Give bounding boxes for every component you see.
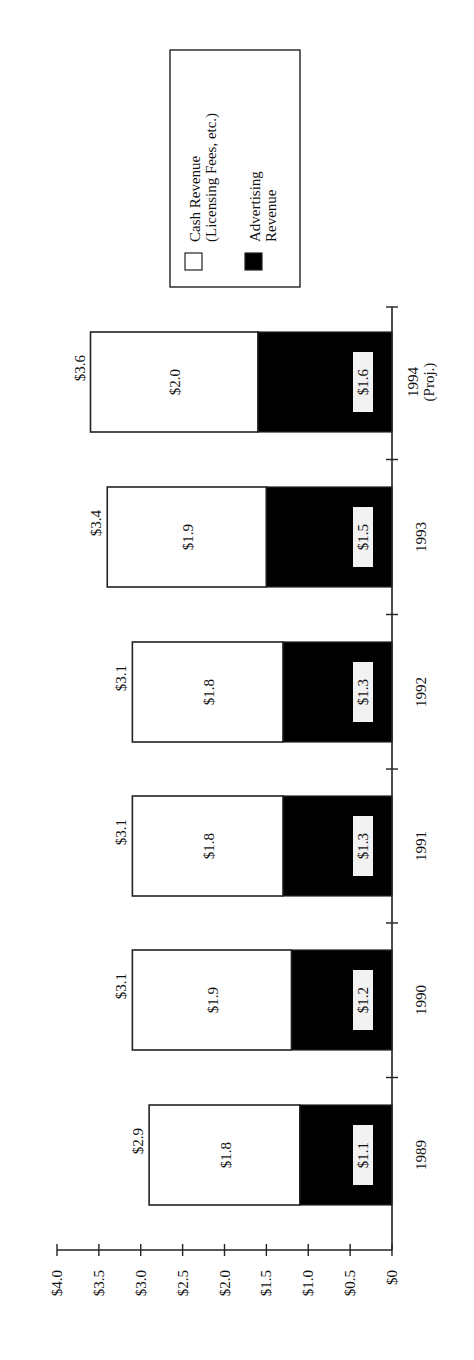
category-label: 1992 (413, 677, 429, 707)
advertising-value-label: $1.2 (355, 987, 371, 1013)
bar-group: $1.6$2.0$3.6 (72, 332, 393, 432)
advertising-value-label: $1.5 (355, 524, 371, 550)
advertising-value-label: $1.6 (355, 368, 371, 395)
total-value-label: $2.9 (130, 1128, 146, 1154)
total-value-label: $3.6 (72, 354, 88, 381)
bar-group: $1.2$1.9$3.1 (113, 950, 392, 1050)
value-tick-label: $2.0 (217, 1270, 233, 1296)
advertising-revenue-segment (266, 487, 392, 587)
total-value-label: $3.1 (113, 973, 129, 999)
cash-value-label: $2.0 (167, 369, 183, 395)
value-tick-label: $1.5 (258, 1270, 274, 1296)
legend-label-sub: (Licensing Fees, etc.) (203, 113, 220, 242)
value-axis: $0$0.5$1.0$1.5$2.0$2.5$3.0$3.5$4.0 (49, 1244, 400, 1296)
value-tick-label: $1.0 (300, 1270, 316, 1296)
value-tick-label: $0.5 (342, 1270, 358, 1296)
total-value-label: $3.4 (88, 509, 104, 536)
advertising-revenue-swatch (245, 253, 262, 270)
value-tick-label: $3.0 (133, 1270, 149, 1296)
value-tick-label: $2.5 (175, 1270, 191, 1296)
bar-group: $1.1$1.8$2.9 (130, 1105, 392, 1205)
revenue-stacked-bar-chart: $0$0.5$1.0$1.5$2.0$2.5$3.0$3.5$4.0 $1.1$… (0, 0, 474, 1360)
total-value-label: $3.1 (113, 665, 129, 691)
category-label: 1990 (413, 985, 429, 1015)
bar-group: $1.5$1.9$3.4 (88, 487, 392, 587)
category-axis: 198919901991199219931994(Proj.) (386, 307, 438, 1250)
value-tick-label: $0 (384, 1270, 400, 1285)
advertising-revenue-segment (283, 796, 392, 896)
value-tick-label: $3.5 (91, 1270, 107, 1296)
advertising-revenue-segment (283, 642, 392, 742)
category-label: 1991 (413, 831, 429, 861)
cash-revenue-swatch (185, 253, 202, 270)
advertising-value-label: $1.3 (355, 833, 371, 859)
cash-value-label: $1.8 (201, 679, 217, 705)
category-label: 1989 (413, 1140, 429, 1170)
cash-value-label: $1.8 (201, 833, 217, 859)
category-label: 1993 (413, 522, 429, 552)
legend-label: Advertising (247, 171, 263, 242)
cash-value-label: $1.9 (180, 524, 196, 550)
category-label: 1994 (405, 367, 421, 398)
bars: $1.1$1.8$2.9$1.2$1.9$3.1$1.3$1.8$3.1$1.3… (72, 332, 393, 1205)
advertising-value-label: $1.3 (355, 679, 371, 705)
bar-group: $1.3$1.8$3.1 (113, 642, 392, 742)
legend: Cash Revenue(Licensing Fees, etc.)Advert… (170, 50, 300, 287)
category-label-sub: (Proj.) (421, 363, 438, 402)
value-tick-label: $4.0 (49, 1270, 65, 1296)
cash-value-label: $1.9 (205, 987, 221, 1013)
advertising-value-label: $1.1 (355, 1142, 371, 1168)
advertising-revenue-segment (300, 1105, 392, 1205)
cash-value-label: $1.8 (218, 1142, 234, 1168)
legend-label: Cash Revenue (187, 155, 203, 242)
advertising-revenue-segment (292, 950, 393, 1050)
legend-label-sub: Revenue (263, 189, 279, 242)
total-value-label: $3.1 (113, 819, 129, 845)
bar-group: $1.3$1.8$3.1 (113, 796, 392, 896)
